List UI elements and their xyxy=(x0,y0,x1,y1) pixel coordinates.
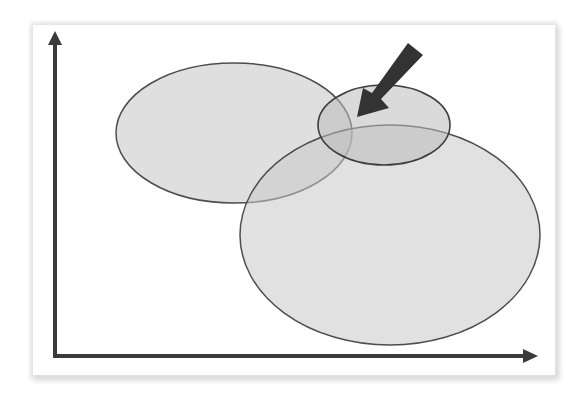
x-axis-arrowhead-icon xyxy=(523,349,538,363)
y-axis-arrowhead-icon xyxy=(48,31,62,45)
x-axis xyxy=(53,349,538,363)
diagram-canvas xyxy=(0,0,587,399)
ellipse-small xyxy=(318,85,450,165)
ellipse-group xyxy=(116,63,540,345)
y-axis xyxy=(48,31,62,356)
